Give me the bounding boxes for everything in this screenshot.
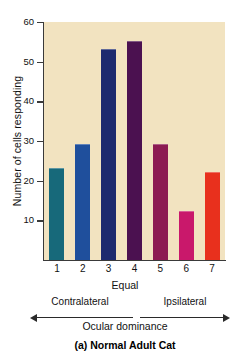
x-tick-label-4: 4 bbox=[123, 263, 147, 274]
x-tick-label-3: 3 bbox=[97, 263, 121, 274]
y-tick-label: 10 bbox=[10, 214, 34, 225]
y-tick-mark bbox=[37, 62, 43, 63]
x-tick-label-6: 6 bbox=[174, 263, 198, 274]
y-tick-label: 40 bbox=[10, 95, 34, 106]
bar-7 bbox=[205, 172, 220, 260]
x-tick-label-7: 7 bbox=[200, 263, 224, 274]
y-tick-mark bbox=[37, 220, 43, 221]
x-tick-label-2: 2 bbox=[71, 263, 95, 274]
bar-4 bbox=[127, 41, 142, 260]
arrow-shaft bbox=[140, 317, 224, 318]
equal-annotation: Equal bbox=[0, 279, 250, 291]
bar-5 bbox=[153, 144, 168, 260]
x-tick-label-5: 5 bbox=[148, 263, 172, 274]
y-tick-label: 60 bbox=[10, 16, 34, 27]
y-tick-mark bbox=[37, 181, 43, 182]
bars-layer bbox=[44, 22, 225, 260]
x-tick-label-1: 1 bbox=[45, 263, 69, 274]
contralateral-label: Contralateral bbox=[26, 296, 134, 307]
y-tick-label: 50 bbox=[10, 56, 34, 67]
ocular-dominance-figure: Number of cells responding 102030405060 … bbox=[0, 0, 250, 358]
y-tick-mark bbox=[37, 141, 43, 142]
y-tick-mark bbox=[37, 22, 43, 23]
y-tick-label: 20 bbox=[10, 175, 34, 186]
y-tick-mark bbox=[37, 101, 43, 102]
figure-caption: (a) Normal Adult Cat bbox=[0, 339, 250, 351]
bar-1 bbox=[49, 168, 64, 260]
bar-2 bbox=[75, 144, 90, 260]
arrow-shaft bbox=[36, 317, 133, 318]
y-tick-label: 30 bbox=[10, 135, 34, 146]
bar-6 bbox=[179, 211, 194, 260]
bar-3 bbox=[101, 49, 116, 260]
x-axis-title: Ocular dominance bbox=[0, 320, 250, 332]
x-axis-line bbox=[43, 260, 226, 261]
ipsilateral-label: Ipsilateral bbox=[139, 296, 231, 307]
